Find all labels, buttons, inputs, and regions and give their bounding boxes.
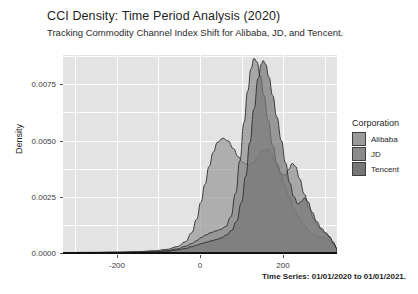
y-tick-mark (60, 253, 63, 254)
y-axis-title: Density (14, 124, 24, 154)
chart-caption: Time Series: 01/01/2020 to 01/01/2021. (262, 272, 406, 281)
x-tick-label: -200 (109, 261, 125, 270)
y-tick-mark (60, 84, 63, 85)
legend-swatch-jd (352, 147, 366, 161)
density-curves (63, 55, 337, 253)
legend-item-alibaba[interactable]: Alibaba (352, 132, 399, 146)
density-chart: CCI Density: Time Period Analysis (2020)… (0, 0, 418, 294)
x-tick-mark (117, 255, 118, 258)
y-tick-label: 0.0000 (32, 249, 56, 258)
chart-title: CCI Density: Time Period Analysis (2020) (47, 9, 280, 23)
x-tick-label: 200 (276, 261, 289, 270)
chart-subtitle: Tracking Commodity Channel Index Shift f… (47, 27, 343, 38)
y-tick-label: 0.0050 (32, 136, 56, 145)
legend-item-jd[interactable]: JD (352, 147, 399, 161)
legend-title: Corporation (352, 118, 399, 128)
axis-baseline (63, 252, 337, 254)
x-tick-mark (283, 255, 284, 258)
y-tick-mark (60, 197, 63, 198)
legend-label: JD (371, 150, 381, 159)
plot-panel (63, 55, 337, 253)
legend-items: AlibabaJDTencent (352, 132, 399, 176)
legend-item-tencent[interactable]: Tencent (352, 162, 399, 176)
x-tick-mark (200, 255, 201, 258)
y-tick-label: 0.0075 (32, 80, 56, 89)
legend: Corporation AlibabaJDTencent (352, 118, 399, 177)
legend-label: Alibaba (371, 135, 398, 144)
y-tick-mark (60, 141, 63, 142)
x-tick-label: 0 (198, 261, 202, 270)
legend-label: Tencent (371, 165, 399, 174)
legend-swatch-tencent (352, 162, 366, 176)
legend-swatch-alibaba (352, 132, 366, 146)
y-tick-label: 0.0025 (32, 192, 56, 201)
